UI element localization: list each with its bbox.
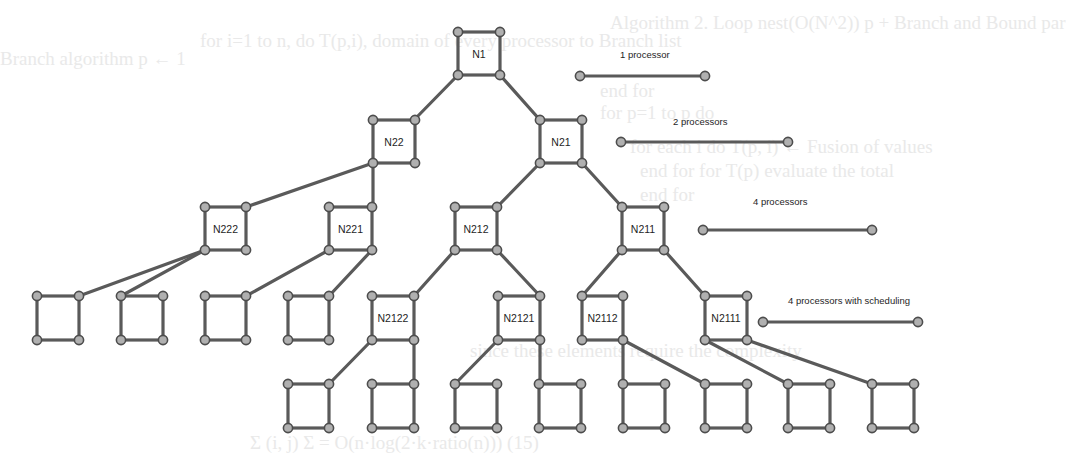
square-outline (872, 384, 914, 428)
vertex-node-icon (577, 335, 586, 344)
vertex-node-icon (74, 291, 83, 300)
vertex-node-icon (158, 335, 167, 344)
vertex-node-icon (909, 379, 918, 388)
vertex-node-icon (742, 379, 751, 388)
processor-square-leaf (618, 379, 669, 432)
vertex-node-icon (700, 335, 709, 344)
vertex-node-icon (74, 335, 83, 344)
legend-node-icon (575, 71, 584, 80)
vertex-node-icon (368, 115, 377, 124)
vertex-node-icon (534, 423, 543, 432)
vertex-node-icon (409, 335, 418, 344)
vertex-node-icon (241, 335, 250, 344)
tree-link (414, 250, 455, 296)
square-outline (372, 384, 414, 428)
vertex-node-icon (367, 202, 376, 211)
legend-node-icon (698, 225, 707, 234)
vertex-node-icon (283, 379, 292, 388)
vertex-node-icon (492, 202, 501, 211)
vertex-node-icon (32, 291, 41, 300)
vertex-node-icon (241, 245, 250, 254)
vertex-node-icon (283, 335, 292, 344)
vertex-node-icon (659, 202, 668, 211)
vertex-node-icon (200, 245, 209, 254)
square-label: N2122 (378, 312, 409, 324)
tree-link (329, 340, 372, 384)
square-label: N2112 (587, 312, 617, 324)
legend-node-icon (913, 317, 922, 326)
processor-square-n2112: N2112 (577, 291, 627, 344)
square-label: N21 (551, 136, 570, 148)
vertex-node-icon (492, 379, 501, 388)
vertex-node-icon (367, 379, 376, 388)
square-outline (455, 384, 497, 428)
tree-link (747, 340, 872, 384)
vertex-node-icon (409, 291, 418, 300)
tree-link (623, 340, 705, 384)
vertex-node-icon (618, 291, 627, 300)
vertex-node-icon (577, 115, 586, 124)
tree-link (455, 340, 498, 384)
vertex-node-icon (324, 423, 333, 432)
vertex-node-icon (534, 379, 543, 388)
processor-square-leaf (283, 291, 333, 344)
processor-square-n2122: N2122 (367, 291, 418, 344)
vertex-node-icon (367, 291, 376, 300)
vertex-node-icon (700, 423, 709, 432)
vertex-node-icon (535, 291, 544, 300)
vertex-node-icon (618, 335, 627, 344)
processor-square-n212: N212 (450, 202, 501, 254)
square-outline (788, 384, 830, 428)
vertex-node-icon (495, 27, 504, 36)
vertex-node-icon (410, 158, 419, 167)
vertex-node-icon (783, 423, 792, 432)
square-label: N1 (472, 48, 486, 60)
tree-link (246, 250, 329, 296)
square-label: N2121 (504, 312, 535, 324)
vertex-node-icon (660, 379, 669, 388)
tree-link (705, 340, 788, 384)
processor-square-leaf (700, 379, 751, 432)
vertex-node-icon (742, 423, 751, 432)
vertex-node-icon (158, 291, 167, 300)
square-outline (705, 384, 747, 428)
vertex-node-icon (241, 291, 250, 300)
legend-item: 2 processors (616, 116, 792, 147)
vertex-node-icon (450, 245, 459, 254)
vertex-node-icon (409, 379, 418, 388)
square-label: N221 (338, 223, 363, 235)
legend-node-icon (867, 225, 876, 234)
vertex-node-icon (324, 291, 333, 300)
vertex-node-icon (200, 335, 209, 344)
square-outline (121, 296, 163, 340)
vertex-node-icon (742, 335, 751, 344)
vertex-node-icon (324, 335, 333, 344)
tree-link (246, 163, 373, 207)
vertex-node-icon (324, 245, 333, 254)
processor-square-leaf (200, 291, 250, 344)
vertex-node-icon (825, 379, 834, 388)
vertex-node-icon (576, 379, 585, 388)
processor-square-leaf (534, 379, 585, 432)
vertex-node-icon (535, 115, 544, 124)
vertex-node-icon (742, 291, 751, 300)
legend-node-icon (783, 137, 792, 146)
vertex-node-icon (659, 245, 668, 254)
vertex-node-icon (576, 423, 585, 432)
processor-square-n221: N221 (324, 202, 376, 254)
legend-item: 4 processors (698, 196, 876, 235)
vertex-node-icon (453, 27, 462, 36)
tree-link (664, 250, 705, 296)
vertex-node-icon (116, 291, 125, 300)
tree-link (497, 250, 540, 296)
processor-square-leaf (867, 379, 918, 432)
vertex-node-icon (200, 202, 209, 211)
processor-square-n211: N211 (617, 202, 668, 254)
square-outline (205, 296, 246, 340)
square-label: N212 (463, 223, 488, 235)
vertex-node-icon (617, 202, 626, 211)
processor-square-n22: N22 (368, 115, 419, 167)
vertex-node-icon (410, 115, 419, 124)
tree-link (414, 75, 458, 120)
